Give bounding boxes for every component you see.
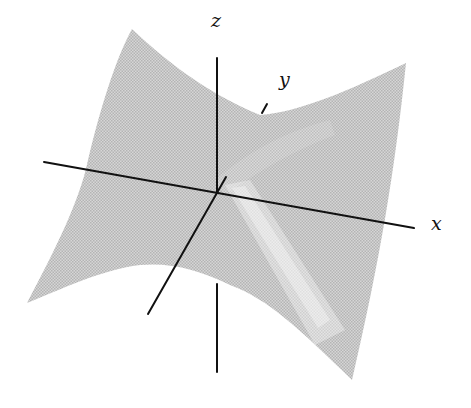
y-axis-far-segment	[262, 104, 267, 113]
y-axis-label: y	[279, 70, 290, 89]
x-axis-label: x	[431, 214, 442, 233]
z-axis-label: z	[211, 11, 221, 30]
saddle-surface-diagram	[0, 0, 471, 408]
